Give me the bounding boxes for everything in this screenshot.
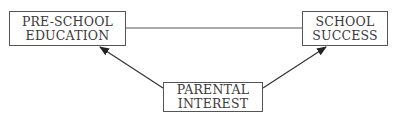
- node-label-line-2: EDUCATION: [26, 29, 110, 43]
- arrow-parental-to-education: [100, 47, 163, 88]
- node-parental-interest: PARENTAL INTEREST: [163, 82, 263, 112]
- diagram-canvas: PRE-SCHOOL EDUCATION SCHOOL SUCCESS PARE…: [0, 0, 397, 114]
- node-pre-school-education: PRE-SCHOOL EDUCATION: [9, 11, 126, 46]
- node-label-line-1: PARENTAL: [177, 83, 249, 97]
- node-label-line-1: SCHOOL: [315, 15, 374, 29]
- node-school-success: SCHOOL SUCCESS: [302, 11, 388, 46]
- node-label-line-1: PRE-SCHOOL: [22, 15, 113, 29]
- node-label-line-2: INTEREST: [178, 97, 248, 111]
- node-label-line-2: SUCCESS: [312, 29, 378, 43]
- arrow-parental-to-success: [263, 47, 326, 88]
